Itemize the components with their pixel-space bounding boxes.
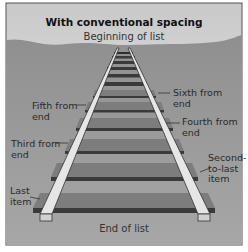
label-last-item: Last item <box>10 186 31 207</box>
label-fifth-from-end: Fifth from end <box>32 101 77 122</box>
label-third-from-end: Third from end <box>11 139 60 160</box>
figure-title: With conventional spacing <box>0 16 248 28</box>
label-sixth-from-end: Sixth from end <box>173 88 222 109</box>
label-second-to-last-item: Second- to-last item <box>208 153 246 185</box>
end-of-list-label: End of list <box>0 223 248 234</box>
label-fourth-from-end: Fourth from end <box>182 117 238 138</box>
beginning-of-list-label: Beginning of list <box>0 31 248 42</box>
